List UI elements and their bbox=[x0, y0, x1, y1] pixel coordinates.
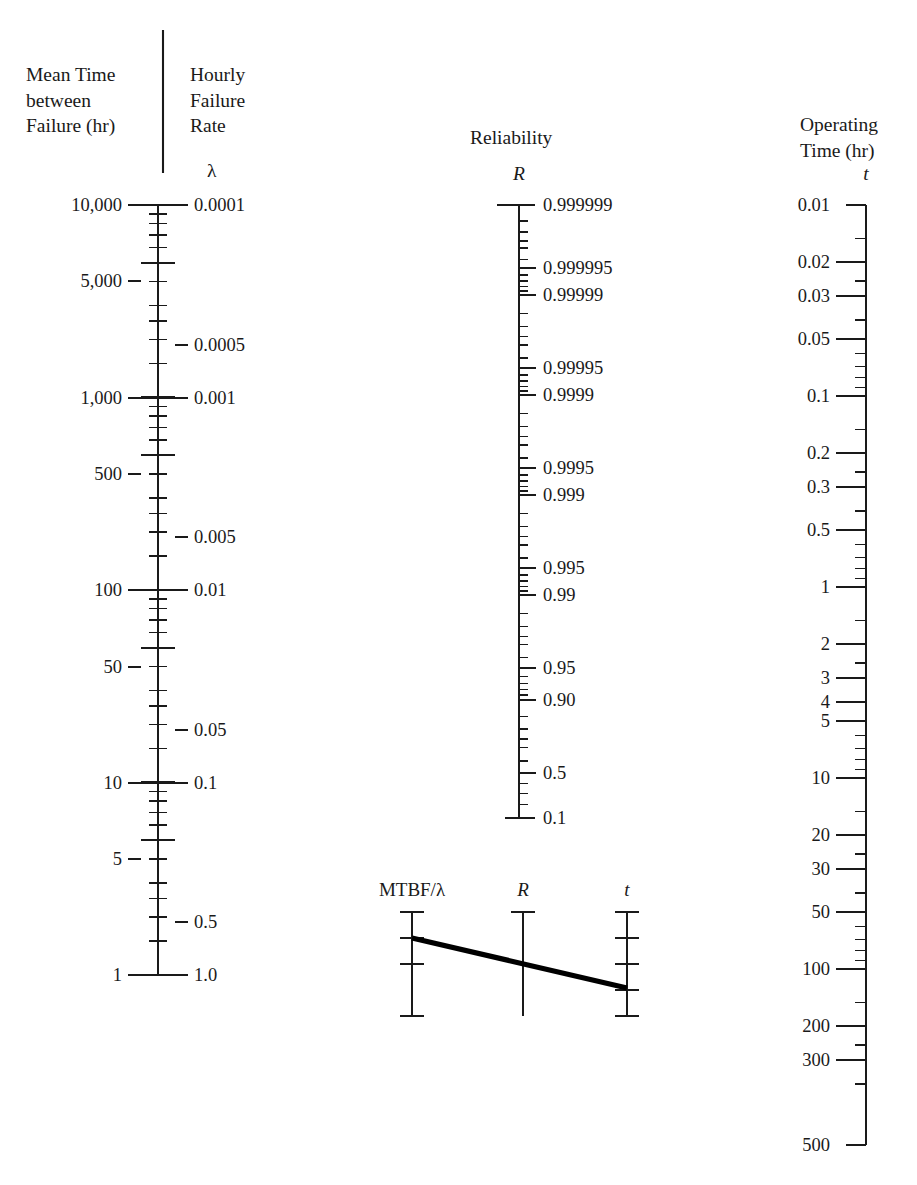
tick-label-time-8: 1 bbox=[821, 577, 830, 598]
tick-label-lambda-4: 0.01 bbox=[194, 580, 226, 601]
tick-label-mtbf-0: 10,000 bbox=[71, 195, 122, 216]
tick-label-time-19: 300 bbox=[802, 1050, 830, 1071]
tick-label-reliability-8: 0.99 bbox=[543, 585, 575, 606]
tick-label-reliability-12: 0.1 bbox=[543, 808, 566, 829]
tick-label-time-12: 5 bbox=[821, 711, 830, 732]
tick-label-reliability-10: 0.90 bbox=[543, 690, 575, 711]
tick-label-reliability-11: 0.5 bbox=[543, 763, 566, 784]
axis-reliability bbox=[497, 205, 536, 818]
header-mtbf: Mean Time between Failure (hr) bbox=[26, 62, 156, 139]
tick-label-reliability-9: 0.95 bbox=[543, 658, 575, 679]
tick-label-mtbf-3: 500 bbox=[94, 464, 122, 485]
tick-label-time-5: 0.2 bbox=[807, 443, 830, 464]
tick-label-lambda-1: 0.0005 bbox=[194, 335, 245, 356]
inset-label-2: t bbox=[624, 879, 629, 901]
tick-label-mtbf-6: 10 bbox=[104, 773, 123, 794]
tick-label-mtbf-1: 5,000 bbox=[80, 271, 122, 292]
tick-label-reliability-5: 0.9995 bbox=[543, 458, 594, 479]
tick-label-lambda-7: 0.5 bbox=[194, 912, 217, 933]
tick-label-time-2: 0.03 bbox=[798, 286, 830, 307]
tick-label-mtbf-4: 100 bbox=[94, 580, 122, 601]
nomogram-figure: Mean Time between Failure (hr) Hourly Fa… bbox=[0, 0, 917, 1185]
tick-label-reliability-2: 0.99999 bbox=[543, 285, 603, 306]
tick-label-time-10: 3 bbox=[821, 668, 830, 689]
tick-label-lambda-6: 0.1 bbox=[194, 773, 217, 794]
tick-label-time-11: 4 bbox=[821, 692, 830, 713]
axis-mtbf-lambda bbox=[128, 205, 188, 975]
tick-label-lambda-3: 0.005 bbox=[194, 527, 236, 548]
symbol-reliability: R bbox=[513, 163, 525, 185]
nomogram-canvas bbox=[0, 0, 917, 1185]
tick-label-reliability-7: 0.995 bbox=[543, 558, 585, 579]
tick-label-time-15: 30 bbox=[812, 859, 831, 880]
tick-label-lambda-8: 1.0 bbox=[194, 965, 217, 986]
tick-label-time-0: 0.01 bbox=[798, 195, 830, 216]
tick-label-reliability-0: 0.999999 bbox=[543, 195, 612, 216]
symbol-lambda: λ bbox=[207, 160, 216, 182]
tick-label-time-13: 10 bbox=[812, 768, 831, 789]
tick-label-time-20: 500 bbox=[802, 1135, 830, 1156]
tick-label-lambda-5: 0.05 bbox=[194, 720, 226, 741]
tick-label-time-18: 200 bbox=[802, 1016, 830, 1037]
tick-label-mtbf-8: 1 bbox=[113, 965, 122, 986]
tick-label-time-9: 2 bbox=[821, 634, 830, 655]
tick-label-reliability-1: 0.999995 bbox=[543, 258, 612, 279]
tick-label-time-4: 0.1 bbox=[807, 386, 830, 407]
tick-label-reliability-3: 0.99995 bbox=[543, 358, 603, 379]
tick-label-lambda-0: 0.0001 bbox=[194, 195, 245, 216]
header-operating-time: Operating Time (hr) bbox=[800, 112, 917, 163]
inset-label-1: R bbox=[517, 879, 529, 901]
tick-label-mtbf-7: 5 bbox=[113, 849, 122, 870]
header-reliability: Reliability bbox=[470, 125, 630, 151]
axis-operating-time bbox=[836, 205, 866, 1145]
tick-label-time-1: 0.02 bbox=[798, 252, 830, 273]
tick-label-time-7: 0.5 bbox=[807, 520, 830, 541]
tick-label-reliability-4: 0.9999 bbox=[543, 385, 594, 406]
tick-label-mtbf-2: 1,000 bbox=[80, 388, 122, 409]
tick-label-time-16: 50 bbox=[812, 902, 831, 923]
tick-label-time-17: 100 bbox=[802, 959, 830, 980]
tick-label-lambda-2: 0.001 bbox=[194, 388, 236, 409]
symbol-operating-time: t bbox=[863, 163, 868, 185]
header-failure-rate: Hourly Failure Rate bbox=[190, 62, 320, 139]
inset-isopleth-line bbox=[412, 938, 627, 988]
tick-label-time-14: 20 bbox=[812, 825, 831, 846]
tick-label-time-3: 0.05 bbox=[798, 329, 830, 350]
tick-label-reliability-6: 0.999 bbox=[543, 485, 585, 506]
inset-example-diagram bbox=[400, 912, 639, 1016]
tick-label-mtbf-5: 50 bbox=[104, 657, 123, 678]
inset-label-0: MTBF/λ bbox=[379, 879, 445, 901]
tick-label-time-6: 0.3 bbox=[807, 477, 830, 498]
